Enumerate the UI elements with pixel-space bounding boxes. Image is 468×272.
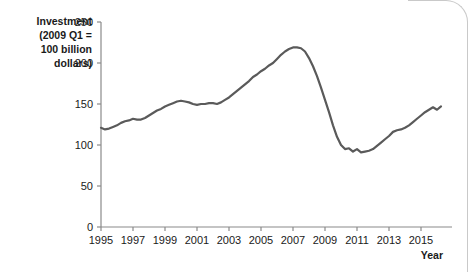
x-axis-ticks: 1995199719992001200320052007200920112013… (89, 227, 433, 246)
x-axis-title: Year (421, 249, 443, 261)
y-axis-title: Investment (2009 Q1 = 100 billion dollar… (37, 15, 93, 69)
x-tick-label: 2011 (345, 234, 369, 246)
x-tick-label: 1999 (153, 234, 177, 246)
x-tick-label: 2003 (217, 234, 241, 246)
y-tick-label: 100 (75, 139, 93, 151)
x-tick-label: 2013 (377, 234, 401, 246)
y-axis-title-line-3: 100 billion (41, 43, 92, 55)
investment-series-line (101, 47, 441, 152)
y-axis-title-line-4: dollars) (54, 57, 92, 69)
y-tick-label: 150 (75, 98, 93, 110)
investment-line-chart-figure: 050100150200250 199519971999200120032005… (0, 0, 468, 272)
chart-canvas: 050100150200250 199519971999200120032005… (0, 0, 468, 272)
y-axis-title-line-1: Investment (37, 15, 93, 27)
x-tick-label: 2005 (249, 234, 273, 246)
x-tick-label: 1997 (121, 234, 145, 246)
y-tick-label: 0 (87, 221, 93, 233)
y-tick-label: 50 (81, 180, 93, 192)
x-tick-label: 1995 (89, 234, 113, 246)
x-tick-label: 2001 (185, 234, 209, 246)
x-tick-label: 2015 (409, 234, 433, 246)
x-tick-label: 2007 (281, 234, 305, 246)
x-tick-label: 2009 (313, 234, 337, 246)
y-axis-title-line-2: (2009 Q1 = (39, 29, 92, 41)
